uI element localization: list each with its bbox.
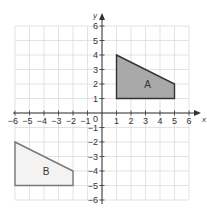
x-tick-label: 6 — [186, 116, 191, 126]
y-tick-label: −1 — [88, 123, 98, 133]
x-axis-label: x — [201, 115, 207, 124]
y-tick-label: −6 — [88, 195, 98, 205]
y-axis-arrow-icon — [99, 13, 105, 20]
x-tick-label: 4 — [157, 116, 162, 126]
x-tick-label: 2 — [128, 116, 133, 126]
coordinate-plane-svg: AB −6−5−4−3−2−1123456654321−1−2−3−4−5−60… — [0, 0, 207, 214]
y-tick-label: 5 — [93, 36, 98, 46]
y-tick-label: 2 — [93, 79, 98, 89]
y-tick-label: 4 — [93, 50, 98, 60]
x-tick-label: −6 — [8, 116, 18, 126]
x-tick-label: 5 — [172, 116, 177, 126]
y-tick-label: 6 — [93, 21, 98, 31]
y-tick-label: −3 — [88, 152, 98, 162]
x-axis-arrow-icon — [194, 110, 201, 116]
y-tick-label: −4 — [88, 166, 98, 176]
coordinate-plane: AB −6−5−4−3−2−1123456654321−1−2−3−4−5−60… — [0, 0, 207, 214]
origin-label: 0 — [93, 114, 98, 124]
y-tick-label: 3 — [93, 65, 98, 75]
x-tick-label: −5 — [22, 116, 32, 126]
x-tick-label: −4 — [37, 116, 47, 126]
x-tick-label: −2 — [66, 116, 76, 126]
y-axis-label: y — [92, 11, 98, 20]
y-tick-label: −5 — [88, 181, 98, 191]
y-tick-label: 1 — [93, 94, 98, 104]
shape-label-a: A — [144, 79, 151, 90]
x-tick-label: 1 — [114, 116, 119, 126]
y-tick-label: −2 — [88, 137, 98, 147]
shape-label-b: B — [43, 166, 50, 177]
x-tick-label: −3 — [51, 116, 61, 126]
x-tick-label: 3 — [143, 116, 148, 126]
